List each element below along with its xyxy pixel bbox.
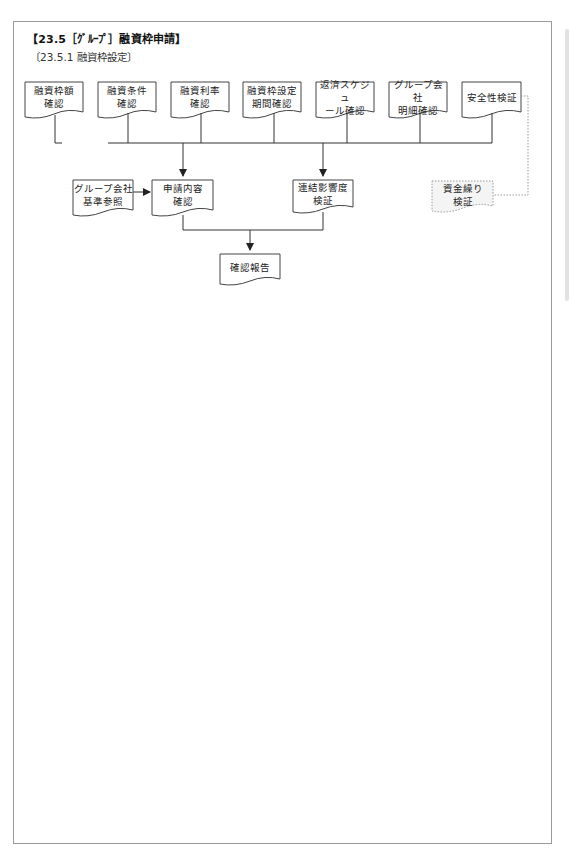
- node-group-standard-reference: グループ会社 基準参照: [73, 182, 133, 208]
- node-application-content-check: 申請内容 確認: [152, 182, 213, 208]
- node-confirmation-report: 確認報告: [220, 256, 280, 278]
- node-repayment-schedule-check: 返済スケジュ ール確認: [316, 84, 374, 110]
- flowchart: [0, 0, 569, 858]
- node-interest-rate-check: 融資利率 確認: [171, 84, 229, 110]
- node-loan-limit-check: 融資枠額 確認: [25, 84, 83, 110]
- node-group-company-detail-check: グループ会社 明細確認: [389, 84, 447, 110]
- node-cash-flow-verification: 資金繰り 検証: [432, 182, 493, 207]
- node-safety-verification: 安全性検証: [462, 84, 521, 110]
- node-loan-terms-check: 融資条件 確認: [98, 84, 156, 110]
- node-consolidated-impact-verification: 連結影響度 検証: [293, 181, 353, 207]
- node-limit-period-check: 融資枠設定 期間確認: [243, 84, 301, 110]
